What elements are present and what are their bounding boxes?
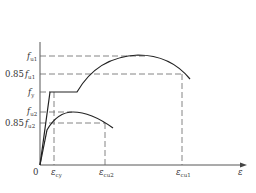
x-label-ecy: εcy	[51, 167, 63, 179]
x-axis-label: ε	[238, 167, 243, 177]
y-tick-labels: fu1 0.85fu1 fy fu2 0.85fu2	[5, 51, 37, 129]
y-label-fu2: fu2	[26, 106, 37, 117]
y-label-085fu2: 0.85fu2	[5, 118, 35, 129]
origin-label: 0	[33, 167, 38, 177]
y-label-fy: fy	[27, 87, 35, 99]
x-label-ecu1: εcu1	[176, 167, 191, 178]
y-label-fu1: fu1	[26, 51, 37, 62]
x-label-ecu2: εcu2	[99, 167, 114, 178]
curve-1	[40, 55, 190, 165]
x-tick-labels: 0 εcy εcu2 εcu1 ε	[33, 167, 243, 179]
y-label-085fu1: 0.85fu1	[5, 69, 35, 80]
curve-2	[40, 112, 113, 165]
guide-lines	[40, 56, 182, 165]
axes	[40, 42, 243, 165]
stress-strain-diagram: fu1 0.85fu1 fy fu2 0.85fu2 0 εcy εcu2 εc…	[0, 0, 256, 193]
